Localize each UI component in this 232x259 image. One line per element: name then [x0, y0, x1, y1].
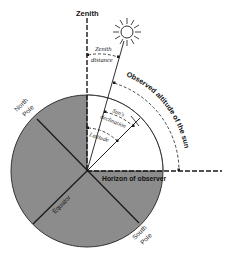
horizon-label: Horizon of observer [102, 175, 167, 182]
sun-icon [113, 18, 141, 46]
celestial-navigation-diagram: Zenith Zenith distance Observed altitude… [0, 0, 232, 259]
zenith-label: Zenith [76, 9, 99, 18]
zenith-distance-label-1: Zenith [95, 45, 112, 52]
zenith-distance-label-2: distance [91, 56, 113, 63]
